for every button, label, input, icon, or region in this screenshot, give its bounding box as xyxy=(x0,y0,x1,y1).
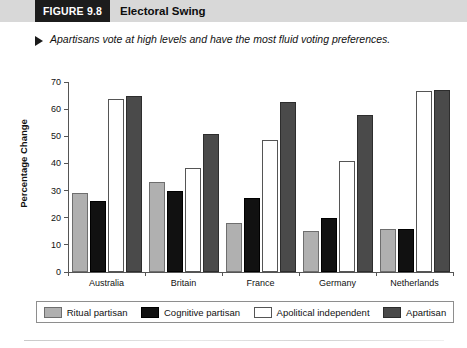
legend-label: Apolitical independent xyxy=(277,307,370,318)
y-axis-tick-label: 60 xyxy=(41,104,61,114)
x-axis-tick-mark xyxy=(453,272,454,276)
legend-swatch xyxy=(383,307,401,318)
figure-title: Electoral Swing xyxy=(120,0,206,22)
y-axis-tick-label: 0 xyxy=(41,267,61,277)
y-axis-tick-label: 20 xyxy=(41,213,61,223)
legend-label: Apartisan xyxy=(406,307,446,318)
bar xyxy=(357,115,373,272)
legend-swatch xyxy=(254,307,272,318)
y-axis-title: Percentage Change xyxy=(18,89,29,239)
bar-group xyxy=(299,82,376,272)
x-axis-line xyxy=(68,272,454,273)
bar xyxy=(416,91,432,272)
bar xyxy=(303,231,319,272)
bar xyxy=(226,223,242,273)
bar xyxy=(167,191,183,272)
bar xyxy=(149,182,165,272)
bar xyxy=(380,229,396,272)
y-axis-tick: 30 xyxy=(41,186,68,196)
legend-item[interactable]: Apolitical independent xyxy=(254,307,370,318)
bar xyxy=(203,134,219,272)
figure-number-label: FIGURE 9.8 xyxy=(43,5,102,17)
legend-item[interactable]: Ritual partisan xyxy=(44,307,128,318)
y-axis-tick: 60 xyxy=(41,104,68,114)
bar xyxy=(434,90,450,273)
bar xyxy=(108,99,124,272)
bottom-divider xyxy=(24,340,444,341)
legend-label: Cognitive partisan xyxy=(164,307,240,318)
y-axis-tick: 20 xyxy=(41,213,68,223)
y-axis-tick-label: 30 xyxy=(41,186,61,196)
bar xyxy=(72,193,88,272)
y-axis-tick-label: 40 xyxy=(41,158,61,168)
plot-area: 010203040506070AustraliaBritainFranceGer… xyxy=(68,82,453,272)
legend-item[interactable]: Apartisan xyxy=(383,307,446,318)
y-axis-tick: 70 xyxy=(41,77,68,87)
chart-legend: Ritual partisanCognitive partisanApoliti… xyxy=(36,301,454,323)
bar-group-bars xyxy=(222,82,299,272)
chart: Percentage Change 010203040506070Austral… xyxy=(0,66,467,288)
x-axis-tick-mark xyxy=(376,272,377,276)
bar-group-bars xyxy=(299,82,376,272)
legend-swatch xyxy=(44,307,62,318)
bar xyxy=(398,229,414,272)
bar xyxy=(244,198,260,272)
legend-label: Ritual partisan xyxy=(67,307,128,318)
legend-swatch xyxy=(141,307,159,318)
bar-group xyxy=(145,82,222,272)
bar-group xyxy=(222,82,299,272)
x-axis-tick-mark xyxy=(222,272,223,276)
y-axis-tick: 50 xyxy=(41,131,68,141)
bar xyxy=(90,201,106,272)
x-axis-tick-label: Netherlands xyxy=(370,278,460,288)
bar-group xyxy=(376,82,453,272)
bar xyxy=(339,161,355,272)
bar-group-bars xyxy=(68,82,145,272)
x-axis-tick-mark xyxy=(68,272,69,276)
x-axis-tick-mark xyxy=(145,272,146,276)
triangle-right-icon xyxy=(35,36,43,46)
bar xyxy=(185,168,201,272)
y-axis-tick-label: 50 xyxy=(41,131,61,141)
bar-group-bars xyxy=(376,82,453,272)
bar xyxy=(262,140,278,272)
y-axis-tick: 0 xyxy=(41,267,68,277)
bar-group xyxy=(68,82,145,272)
bar-group-bars xyxy=(145,82,222,272)
y-axis-tick-label: 10 xyxy=(41,240,61,250)
caption: Apartisans vote at high levels and have … xyxy=(35,33,455,46)
y-axis-tick: 40 xyxy=(41,158,68,168)
x-axis-tick-mark xyxy=(299,272,300,276)
bar xyxy=(321,218,337,272)
bar xyxy=(126,96,142,272)
caption-text: Apartisans vote at high levels and have … xyxy=(50,33,390,46)
y-axis-tick-label: 70 xyxy=(41,77,61,87)
y-axis-tick: 10 xyxy=(41,240,68,250)
figure-number-tag: FIGURE 9.8 xyxy=(35,0,110,22)
legend-item[interactable]: Cognitive partisan xyxy=(141,307,240,318)
bar xyxy=(280,102,296,272)
